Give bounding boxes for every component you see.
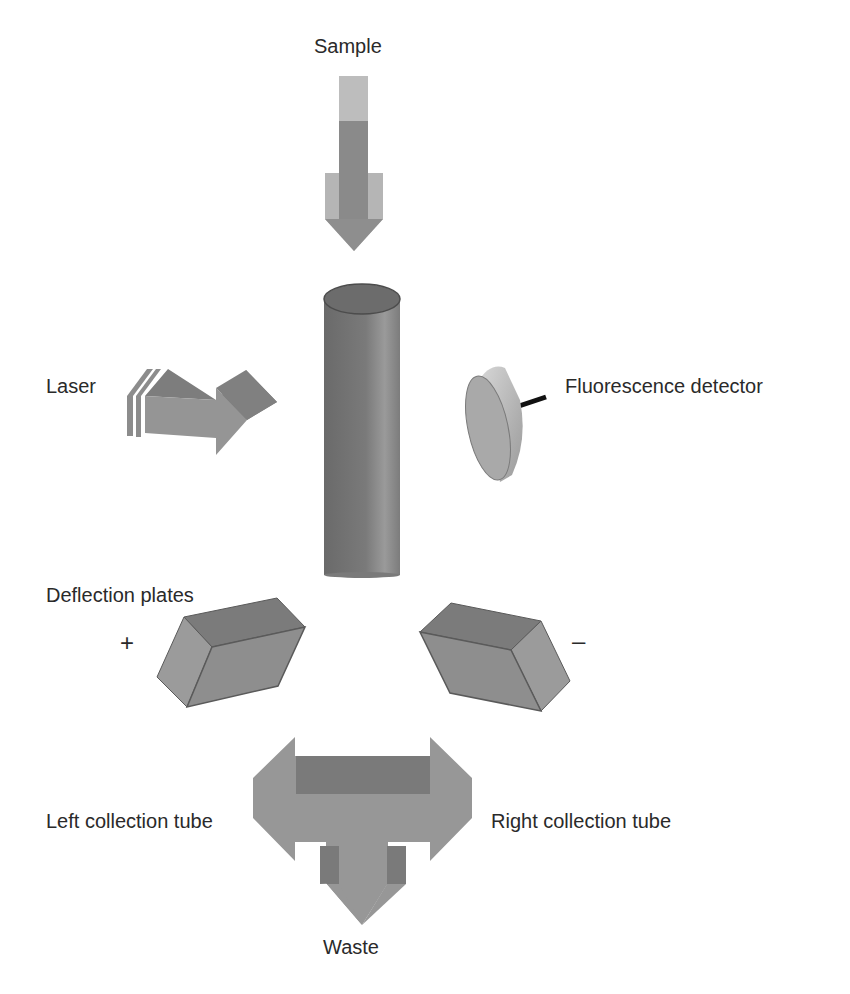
laser-label: Laser (46, 376, 96, 396)
left-deflection-plate (157, 598, 305, 707)
right-deflection-plate (420, 603, 570, 711)
sample-label: Sample (314, 36, 382, 56)
minus-sign: – (572, 629, 585, 653)
plus-sign: + (120, 631, 134, 655)
right-collection-tube-label: Right collection tube (491, 811, 671, 831)
flow-cell-cylinder (324, 284, 400, 578)
left-collection-tube-label: Left collection tube (46, 811, 213, 831)
waste-label: Waste (323, 937, 379, 957)
laser-arrow (127, 369, 277, 455)
flow-cytometry-diagram: Sample Laser Fluorescence detector Defle… (0, 0, 850, 994)
deflection-plates-label: Deflection plates (46, 585, 194, 605)
fluorescence-detector (457, 367, 546, 484)
sorting-arrow (253, 737, 472, 925)
sample-arrow (325, 76, 383, 251)
fluorescence-detector-label: Fluorescence detector (565, 376, 763, 396)
